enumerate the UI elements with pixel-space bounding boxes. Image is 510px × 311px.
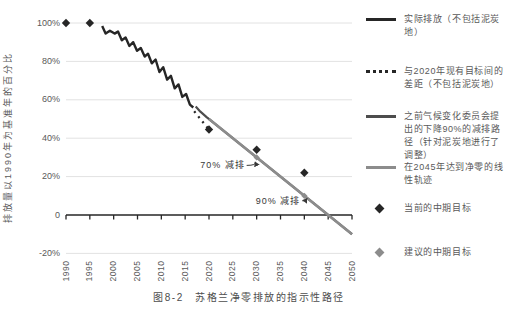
diamond-marker-icon xyxy=(375,247,385,257)
legend-label: 当前的中期目标 xyxy=(404,202,506,215)
legend-item-current-interim-targets: 当前的中期目标 xyxy=(366,202,506,215)
x-tick-label-text: 2050 xyxy=(347,261,357,282)
x-tick-label-text: 2015 xyxy=(180,261,190,282)
legend-item-proposed-interim-targets: 建议的中期目标 xyxy=(366,246,506,259)
y-tick-label: 60% xyxy=(16,94,60,104)
x-tick-label-text: 2035 xyxy=(275,261,285,282)
y-tick-label: 20% xyxy=(16,171,60,181)
legend-item-actual-emissions: 实际排放（不包括泥炭地） xyxy=(366,13,506,39)
x-tick-label-text: 2000 xyxy=(109,261,119,282)
x-tick-label-text: 2005 xyxy=(132,261,142,282)
series-1-line xyxy=(102,26,193,108)
current-target-marker xyxy=(86,19,94,27)
x-tick-label-text: 1995 xyxy=(85,261,95,282)
annotation-label: 90% 减排 xyxy=(256,195,301,206)
x-tick-label-text: 2025 xyxy=(228,261,238,282)
dotted-line-swatch-icon xyxy=(366,70,396,73)
diamond-marker-icon xyxy=(375,203,385,213)
annotation-arrow xyxy=(302,200,305,201)
legend-item-gap-to-2020-target: 与2020年现有目标间的差距（不包括泥炭地） xyxy=(366,65,506,91)
current-target-marker xyxy=(205,125,213,133)
y-tick-label: 40% xyxy=(16,133,60,143)
x-tick-label-text: 2045 xyxy=(323,261,333,282)
y-axis-title-text: 排放量以1990年为基准年的百分比 xyxy=(2,51,15,222)
figure-caption: 图8-2 苏格兰净零排放的指示性路径 xyxy=(112,289,386,304)
legend-label: 之前气候变化委员会提出的下降90%的减排路径（针对泥炭地进行了调整） xyxy=(404,110,506,162)
x-tick-label-text: 2020 xyxy=(204,261,214,282)
legend-item-ccc-90-path: 之前气候变化委员会提出的下降90%的减排路径（针对泥炭地进行了调整） xyxy=(366,110,506,162)
y-tick-label: 100% xyxy=(16,18,60,28)
legend-label: 在2045年达到净零的线性轨迹 xyxy=(404,161,506,187)
solid-line-swatch-icon xyxy=(366,18,396,21)
x-tick-label-text: 2040 xyxy=(299,261,309,282)
annotation-label: 70% 减排 xyxy=(200,159,245,170)
x-tick-label-text: 2030 xyxy=(252,261,262,282)
y-tick-label: 80% xyxy=(16,56,60,66)
legend-item-netzero-2045-trajectory: 在2045年达到净零的线性轨迹 xyxy=(366,161,506,187)
legend: 实际排放（不包括泥炭地） 与2020年现有目标间的差距（不包括泥炭地） 之前气候… xyxy=(366,0,510,311)
x-tick-label: 2050 xyxy=(337,252,367,290)
y-tick-label: 0 xyxy=(16,210,60,220)
gray-line-swatch-icon xyxy=(366,166,396,169)
x-tick-label-text: 1990 xyxy=(61,261,71,282)
legend-label: 建议的中期目标 xyxy=(404,246,506,259)
legend-label: 与2020年现有目标间的差距（不包括泥炭地） xyxy=(404,65,506,91)
solid-line-swatch-icon xyxy=(366,115,396,118)
legend-label: 实际排放（不包括泥炭地） xyxy=(404,13,506,39)
figure-net-zero-pathway: 70% 减排90% 减排 排放量以1990年为基准年的百分比 图8-2 苏格兰净… xyxy=(0,0,510,311)
current-target-marker xyxy=(252,146,260,154)
x-tick-label-text: 2010 xyxy=(156,261,166,282)
current-target-marker xyxy=(300,169,308,177)
annotation-arrow xyxy=(247,162,256,166)
current-target-marker xyxy=(62,19,70,27)
